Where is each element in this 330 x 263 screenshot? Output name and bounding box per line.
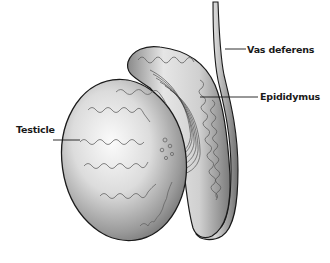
vas-deferens-label: Vas deferens (247, 45, 314, 55)
anatomy-diagram: Vas deferens Epididymus Testicle (0, 0, 330, 263)
epididymus-label: Epididymus (260, 92, 320, 102)
testicle-label: Testicle (16, 125, 55, 135)
